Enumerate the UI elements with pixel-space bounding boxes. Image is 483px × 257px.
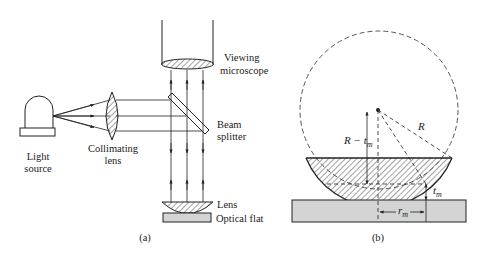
- vertical-rays: [171, 70, 203, 202]
- figure-a: Light source Collimating lens Beam split…: [20, 20, 269, 244]
- test-lens-icon: [162, 202, 213, 213]
- radius-label: R: [417, 120, 425, 132]
- viewing-microscope-label-1: Viewing: [224, 52, 260, 63]
- optical-flat-label: Optical flat: [216, 213, 264, 224]
- optical-flat-b-icon: [292, 200, 466, 222]
- t-m-label: tm: [433, 184, 442, 199]
- light-source-label-2: source: [24, 163, 52, 174]
- figure-b: R − tm R tm rm (b): [292, 31, 466, 244]
- beam-splitter-label-1: Beam: [217, 119, 242, 130]
- optical-flat-a-icon: [163, 213, 211, 222]
- collimating-lens-label-2: lens: [105, 155, 122, 166]
- viewing-microscope-label-2: microscope: [220, 65, 269, 76]
- light-source-icon: [20, 96, 55, 136]
- diverging-rays: [53, 100, 110, 131]
- caption-a: (a): [139, 232, 151, 244]
- collimating-lens-label-1: Collimating: [88, 143, 139, 154]
- diagram-canvas: Light source Collimating lens Beam split…: [0, 0, 483, 257]
- lens-label: Lens: [217, 199, 237, 210]
- beam-splitter-label-2: splitter: [217, 131, 247, 142]
- r-minus-t-label: R − tm: [343, 134, 373, 149]
- light-source-label-1: Light: [27, 151, 50, 162]
- viewing-microscope-icon: [162, 20, 214, 69]
- caption-b: (b): [372, 232, 385, 244]
